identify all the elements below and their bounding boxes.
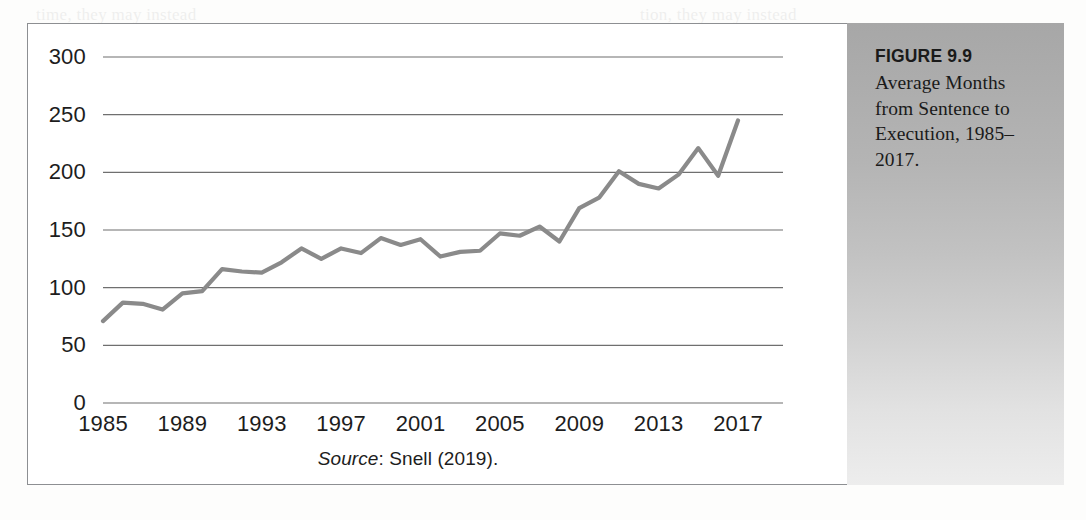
source-note: Source: Snell (2019). [28, 448, 788, 470]
x-tick-label: 2001 [396, 411, 446, 437]
source-citation: : Snell (2019). [379, 448, 499, 469]
x-tick-label: 1997 [316, 411, 366, 437]
x-tick-label: 2005 [475, 411, 525, 437]
data-line [103, 120, 738, 321]
y-tick-label: 150 [49, 217, 86, 243]
figure-title-text: Average Months from Sentence to Executio… [875, 70, 1045, 172]
x-tick-label: 1985 [78, 411, 128, 437]
caption-text-wrapper: FIGURE 9.9 Average Months from Sentence … [875, 45, 1045, 172]
x-tick-label: 1993 [237, 411, 287, 437]
x-tick-label: 2013 [634, 411, 684, 437]
figure-frame: 050100150200250300 198519891993199720012… [27, 23, 1063, 485]
chart-plot-area: 050100150200250300 198519891993199720012… [28, 24, 847, 484]
y-tick-label: 250 [49, 102, 86, 128]
y-tick-label: 200 [49, 159, 86, 185]
x-tick-label: 1989 [158, 411, 208, 437]
gridlines-group [103, 57, 783, 403]
figure-number-label: FIGURE 9.9 [875, 45, 1045, 68]
x-tick-label: 2009 [554, 411, 604, 437]
y-tick-label: 300 [49, 44, 86, 70]
data-series-group [103, 120, 738, 321]
x-tick-label: 2017 [713, 411, 763, 437]
source-label: Source [318, 448, 379, 469]
y-tick-label: 100 [49, 275, 86, 301]
figure-caption-panel: FIGURE 9.9 Average Months from Sentence … [847, 23, 1064, 485]
y-tick-label: 50 [61, 332, 86, 358]
